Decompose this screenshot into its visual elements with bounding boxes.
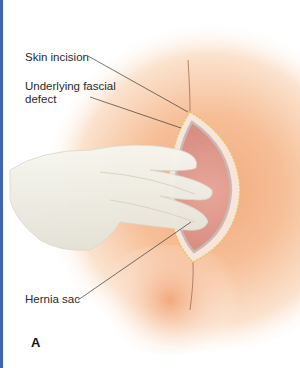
label-hernia-sac: Hernia sac: [25, 293, 80, 306]
hernia-illustration: Skin incision Underlying fascial defect …: [0, 0, 300, 368]
label-skin-incision: Skin incision: [25, 51, 89, 64]
panel-letter: A: [31, 335, 40, 350]
label-fascial-defect: Underlying fascial defect: [25, 80, 135, 106]
